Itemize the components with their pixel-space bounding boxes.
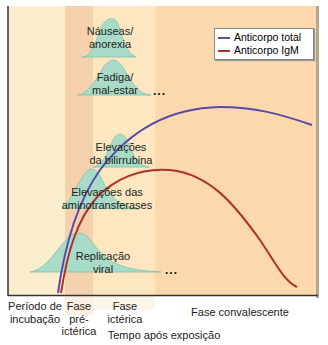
continuation-dots-replicacao: ...	[165, 263, 178, 277]
label-bilirrubina-line2: da bilirrubina	[85, 154, 157, 167]
label-amino-line2: aminotransferases	[57, 199, 157, 212]
phase-icterica-line1: Fase	[95, 300, 155, 313]
label-fadiga-line2: mal-estar	[85, 84, 145, 97]
legend: Anticorpo total Anticorpo IgM	[214, 28, 314, 60]
legend-label-total: Anticorpo total	[234, 31, 301, 44]
phase-incubacao-line2: incubação	[4, 313, 66, 326]
phase-pre-line1: Fase	[60, 300, 98, 313]
label-nauseas: Náuseas/ anorexia	[80, 25, 140, 50]
label-amino-line1: Elevações das	[57, 186, 157, 199]
phase-label-incubacao: Período de incubação	[4, 300, 66, 325]
legend-label-igm: Anticorpo IgM	[234, 44, 299, 57]
x-axis-title: Tempo após exposição	[0, 329, 328, 341]
label-replicacao: Replicação viral	[68, 250, 138, 275]
legend-item-total: Anticorpo total	[218, 31, 310, 44]
phase-icterica-line2: ictérica	[95, 313, 155, 326]
phase-pre-line2: pré-	[60, 313, 98, 326]
label-nauseas-line2: anorexia	[80, 38, 140, 51]
phase-label-icterica: Fase ictérica	[95, 300, 155, 325]
label-replicacao-line2: viral	[68, 263, 138, 276]
continuation-dots-fadiga: ...	[153, 84, 166, 98]
legend-swatch-igm	[218, 50, 230, 52]
label-replicacao-line1: Replicação	[68, 250, 138, 263]
label-bilirrubina-line1: Elevações	[85, 141, 157, 154]
label-bilirrubina: Elevações da bilirrubina	[85, 141, 157, 166]
legend-swatch-total	[218, 37, 230, 39]
legend-item-igm: Anticorpo IgM	[218, 44, 310, 57]
phase-convalescente-line1: Fase convalescente	[170, 306, 310, 319]
label-aminotransferases: Elevações das aminotransferases	[57, 186, 157, 211]
label-nauseas-line1: Náuseas/	[80, 25, 140, 38]
chart-right-edge	[316, 6, 319, 298]
phase-label-convalescente: Fase convalescente	[170, 306, 310, 319]
label-fadiga: Fadiga/ mal-estar	[85, 71, 145, 96]
label-fadiga-line1: Fadiga/	[85, 71, 145, 84]
phase-incubacao-line1: Período de	[4, 300, 66, 313]
